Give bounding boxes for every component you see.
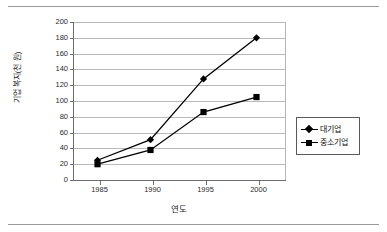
y-axis-tick-mark bbox=[70, 133, 73, 134]
y-axis-tick-label: 100 bbox=[40, 97, 68, 105]
y-axis-tick-label: 120 bbox=[40, 81, 68, 89]
legend-label: 대기업 bbox=[320, 126, 341, 134]
y-axis-tick-label: 20 bbox=[40, 160, 68, 168]
diamond-marker-icon bbox=[301, 124, 318, 135]
y-axis-tick-mark bbox=[70, 101, 73, 102]
x-axis-tick-label: 1985 bbox=[80, 186, 120, 194]
x-axis-tick-label: 1990 bbox=[133, 186, 173, 194]
y-axis-tick-mark bbox=[70, 69, 73, 70]
gridline bbox=[74, 38, 286, 39]
y-axis-tick-label: 80 bbox=[40, 113, 68, 121]
x-axis-tick-label: 1995 bbox=[186, 186, 226, 194]
y-axis-tick-label: 40 bbox=[40, 144, 68, 152]
line-chart-figure: 020406080100120140160180200 198519901995… bbox=[0, 10, 387, 220]
document-rule-bottom bbox=[8, 224, 379, 225]
gridline bbox=[74, 69, 286, 70]
y-axis-tick-label: 160 bbox=[40, 50, 68, 58]
y-axis-title: 기업 복지(천 원) bbox=[11, 18, 22, 138]
x-axis-tick-mark bbox=[153, 181, 154, 185]
x-axis-tick-label: 2000 bbox=[239, 186, 279, 194]
y-axis-tick-label: 200 bbox=[40, 18, 68, 26]
y-axis-tick-mark bbox=[70, 22, 73, 23]
y-axis-tick-mark bbox=[70, 85, 73, 86]
gridline bbox=[74, 22, 286, 23]
gridline bbox=[74, 148, 286, 149]
gridline bbox=[74, 117, 286, 118]
chart-legend: 대기업 중소기업 bbox=[296, 117, 360, 155]
y-axis-tick-mark bbox=[70, 117, 73, 118]
gridline bbox=[74, 101, 286, 102]
legend-label: 중소기업 bbox=[320, 139, 348, 147]
y-axis-tick-mark bbox=[70, 180, 73, 181]
legend-item-large-enterprise[interactable]: 대기업 bbox=[301, 123, 355, 136]
y-axis-tick-label: 180 bbox=[40, 34, 68, 42]
y-axis-tick-mark bbox=[70, 38, 73, 39]
gridline bbox=[74, 133, 286, 134]
x-axis-tick-mark bbox=[206, 181, 207, 185]
gridline bbox=[74, 54, 286, 55]
y-axis-tick-label: 140 bbox=[40, 65, 68, 73]
document-rule-top bbox=[8, 6, 379, 7]
y-axis-tick-mark bbox=[70, 164, 73, 165]
x-axis-tick-mark bbox=[259, 181, 260, 185]
y-axis-tick-label: 0 bbox=[40, 176, 68, 184]
y-axis-tick-label: 60 bbox=[40, 129, 68, 137]
square-marker-icon bbox=[301, 137, 318, 148]
legend-item-sme[interactable]: 중소기업 bbox=[301, 136, 355, 149]
y-axis-tick-mark bbox=[70, 148, 73, 149]
y-axis-tick-mark bbox=[70, 54, 73, 55]
plot-area bbox=[73, 22, 286, 181]
x-axis-tick-mark bbox=[100, 181, 101, 185]
x-axis-title: 연도 bbox=[73, 202, 285, 214]
gridline bbox=[74, 164, 286, 165]
gridline bbox=[74, 85, 286, 86]
